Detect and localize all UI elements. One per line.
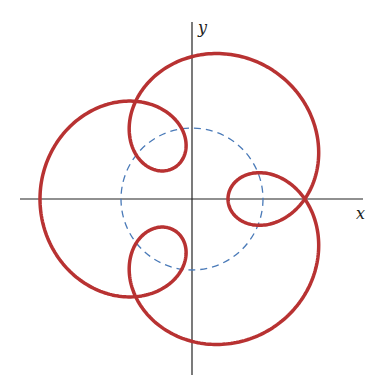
x-axis-label: x [356, 204, 365, 223]
epitrochoid-diagram: x y [0, 0, 383, 391]
plot-canvas: x y [0, 0, 383, 391]
y-axis-label: y [197, 18, 208, 37]
